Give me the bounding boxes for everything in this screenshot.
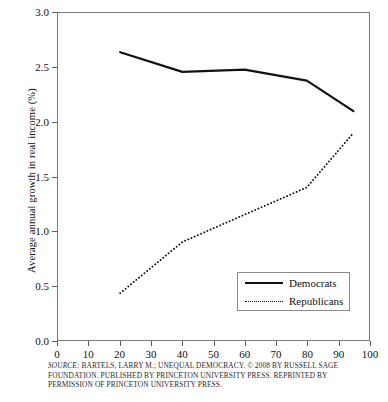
y-tick-label: 1.0 (9, 225, 49, 237)
source-line-1-text: BARTELS, LARRY M.; UNEQUAL DEMOCRACY. © … (80, 361, 339, 370)
y-tick-mark (52, 122, 57, 123)
y-tick-mark (52, 177, 57, 178)
x-tick-mark (339, 341, 340, 346)
legend-item-democrats[interactable]: Democrats (238, 274, 351, 292)
x-tick-mark (88, 341, 89, 346)
y-tick-label: 3.0 (9, 6, 49, 18)
x-tick-mark (245, 341, 246, 346)
source-keyword: SOURCE: (48, 361, 80, 370)
legend-label: Democrats (289, 277, 337, 289)
y-tick-mark (52, 286, 57, 287)
x-tick-mark (214, 341, 215, 346)
series-line-republicans (120, 133, 353, 293)
series-line-democrats (120, 52, 353, 111)
y-tick-label: 2.5 (9, 61, 49, 73)
chart-figure: Average annual growth in real income (%)… (0, 0, 388, 402)
legend-item-republicans[interactable]: Republicans (238, 292, 351, 310)
x-tick-mark (151, 341, 152, 346)
x-tick-mark (120, 341, 121, 346)
source-line-1: SOURCE: BARTELS, LARRY M.; UNEQUAL DEMOC… (48, 361, 382, 371)
source-caption: SOURCE: BARTELS, LARRY M.; UNEQUAL DEMOC… (48, 361, 382, 390)
x-tick-label: 100 (350, 348, 388, 360)
legend-swatch-dotted-icon (245, 295, 283, 307)
y-tick-label: 0.5 (9, 280, 49, 292)
x-tick-mark (57, 341, 58, 346)
y-tick-mark (52, 67, 57, 68)
legend-swatch-solid-icon (245, 277, 283, 289)
x-tick-mark (276, 341, 277, 346)
x-tick-mark (307, 341, 308, 346)
source-line-3: PERMISSION OF PRINCETON UNIVERSITY PRESS… (48, 380, 382, 390)
source-line-2: FOUNDATION. PUBLISHED BY PRINCETON UNIVE… (48, 371, 382, 381)
chart-legend: DemocratsRepublicans (237, 272, 350, 311)
y-tick-label: 2.0 (9, 116, 49, 128)
y-tick-mark (52, 12, 57, 13)
y-tick-mark (52, 231, 57, 232)
legend-label: Republicans (289, 295, 343, 307)
x-tick-mark (370, 341, 371, 346)
y-tick-label: 0.0 (9, 335, 49, 347)
x-tick-mark (182, 341, 183, 346)
y-tick-label: 1.5 (9, 171, 49, 183)
